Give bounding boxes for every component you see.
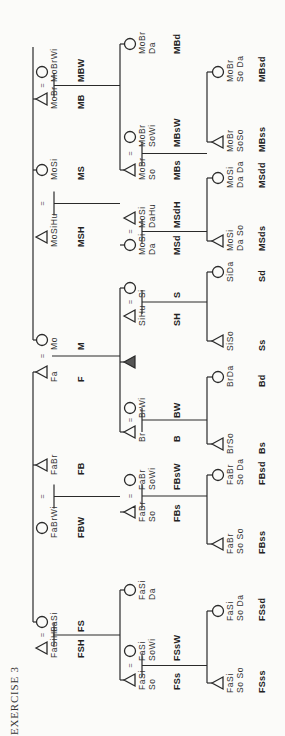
kin-label: MoSiHu	[49, 213, 59, 247]
kin-label: FaSiHu	[49, 626, 59, 658]
kin-label: FaBr	[225, 533, 235, 554]
kin-abbreviation: MSdH	[172, 201, 182, 228]
marriage-sign: =	[127, 300, 134, 304]
kin-abbreviation: MSd	[172, 235, 182, 255]
kin-abbreviation: Bd	[257, 374, 267, 387]
kin-abbreviation: FBsd	[257, 461, 267, 485]
kin-label: MoSi	[49, 158, 59, 180]
marriage-sign: =	[127, 663, 134, 667]
kin-abbreviation: BW	[172, 402, 182, 418]
kin-abbreviation: Sd	[257, 270, 267, 282]
kin-label: FaSi	[225, 601, 235, 621]
female-circle-icon	[125, 39, 136, 50]
female-circle-icon	[213, 470, 224, 481]
kin-label: FaBr	[225, 464, 235, 485]
kin-nodes: ===========MoBrWiMBWMoBrMBMoSiMSMoSiHuMS…	[36, 31, 267, 693]
kin-label: MoBr	[49, 86, 59, 109]
kin-abbreviation: M	[76, 342, 86, 350]
male-triangle-icon	[212, 235, 223, 247]
female-circle-icon	[125, 283, 136, 294]
male-triangle-icon	[124, 426, 135, 438]
kin-label: FaBr	[49, 454, 59, 475]
kin-label: MoSi	[225, 166, 235, 188]
kin-label: MoSi	[137, 206, 147, 228]
kin-label: So So	[235, 528, 245, 554]
kin-label: SiHu	[137, 305, 147, 326]
kin-abbreviation: FS	[76, 620, 86, 632]
kin-abbreviation: SH	[172, 313, 182, 326]
ego-triangle-icon	[124, 356, 135, 368]
kin-label: FaSi	[137, 641, 147, 661]
female-circle-icon	[213, 173, 224, 184]
female-circle-icon	[37, 617, 48, 628]
kin-abbreviation: FBW	[76, 516, 86, 538]
kin-label: DaHu	[147, 204, 157, 228]
marriage-sign: =	[39, 633, 46, 637]
kin-abbreviation: MBsW	[172, 118, 182, 147]
male-triangle-icon	[36, 642, 47, 654]
male-triangle-icon	[124, 506, 135, 518]
kin-label: Da So	[235, 224, 245, 251]
female-circle-icon	[125, 646, 136, 657]
kin-label: Da	[147, 588, 157, 600]
female-circle-icon	[213, 267, 224, 278]
male-triangle-icon	[212, 136, 223, 148]
kin-label: SiSo	[225, 331, 235, 351]
kin-label: MoBrWi	[49, 48, 59, 82]
female-circle-icon	[125, 403, 136, 414]
kin-label: FaSi	[137, 670, 147, 690]
kin-label: FaBr	[137, 469, 147, 490]
kin-label: MoBr	[225, 129, 235, 152]
female-circle-icon	[213, 606, 224, 617]
male-triangle-icon	[212, 538, 223, 550]
marriage-sign: =	[127, 418, 134, 422]
exercise-title: EXERCISE 3	[8, 666, 20, 735]
kin-abbreviation: MS	[76, 166, 86, 180]
kinship-diagram: EXERCISE 3 ===========MoBrWiMBWMoBrMBMoS…	[0, 0, 285, 736]
kin-label: SoSo	[235, 129, 245, 152]
kin-label: So	[147, 678, 157, 690]
kin-abbreviation: FSH	[76, 639, 86, 658]
male-triangle-icon	[36, 459, 47, 471]
marriage-sign: =	[127, 229, 134, 233]
kin-label: SiDa	[225, 261, 235, 282]
kin-label: SoWi	[147, 467, 157, 490]
kin-abbreviation: MB	[76, 94, 86, 109]
kin-label: Da	[147, 42, 157, 54]
kin-label: MoBr	[137, 157, 147, 180]
kin-label: So Da	[235, 55, 245, 82]
kin-label: FaBrWi	[49, 506, 59, 538]
kin-label: FaSi	[137, 580, 147, 600]
kin-label: BrDa	[225, 365, 235, 387]
kin-label: MoBr	[225, 59, 235, 82]
kin-label: So	[147, 510, 157, 522]
kin-abbreviation: FBsW	[172, 463, 182, 490]
female-circle-icon	[125, 240, 136, 251]
kin-abbreviation: MBs	[172, 160, 182, 180]
kin-label: So	[147, 168, 157, 180]
kin-abbreviation: MSH	[76, 226, 86, 247]
kin-label: Da	[147, 243, 157, 255]
kin-abbreviation: MBW	[76, 58, 86, 82]
kin-label: So Da	[235, 594, 245, 621]
kin-abbreviation: FSs	[172, 673, 182, 690]
marriage-sign: =	[39, 354, 46, 358]
male-triangle-icon	[212, 438, 223, 450]
kin-label: So So	[235, 667, 245, 693]
kin-abbreviation: MBsd	[257, 56, 267, 82]
connector-lines	[33, 44, 212, 683]
kin-abbreviation: FSss	[257, 670, 267, 693]
kin-label: So Da	[235, 458, 245, 485]
female-circle-icon	[213, 372, 224, 383]
kin-label: Fa	[49, 371, 59, 382]
kin-label: SoWi	[147, 124, 157, 147]
kin-label: FaSi	[225, 673, 235, 693]
male-triangle-icon	[212, 335, 223, 347]
kin-label: MoSi	[137, 233, 147, 255]
marriage-sign: =	[127, 494, 134, 498]
kin-label: Si	[137, 289, 147, 298]
marriage-sign: =	[39, 494, 46, 498]
kin-label: Da Da	[235, 161, 245, 188]
kin-abbreviation: FBss	[257, 531, 267, 554]
kin-abbreviation: Ss	[257, 339, 267, 351]
